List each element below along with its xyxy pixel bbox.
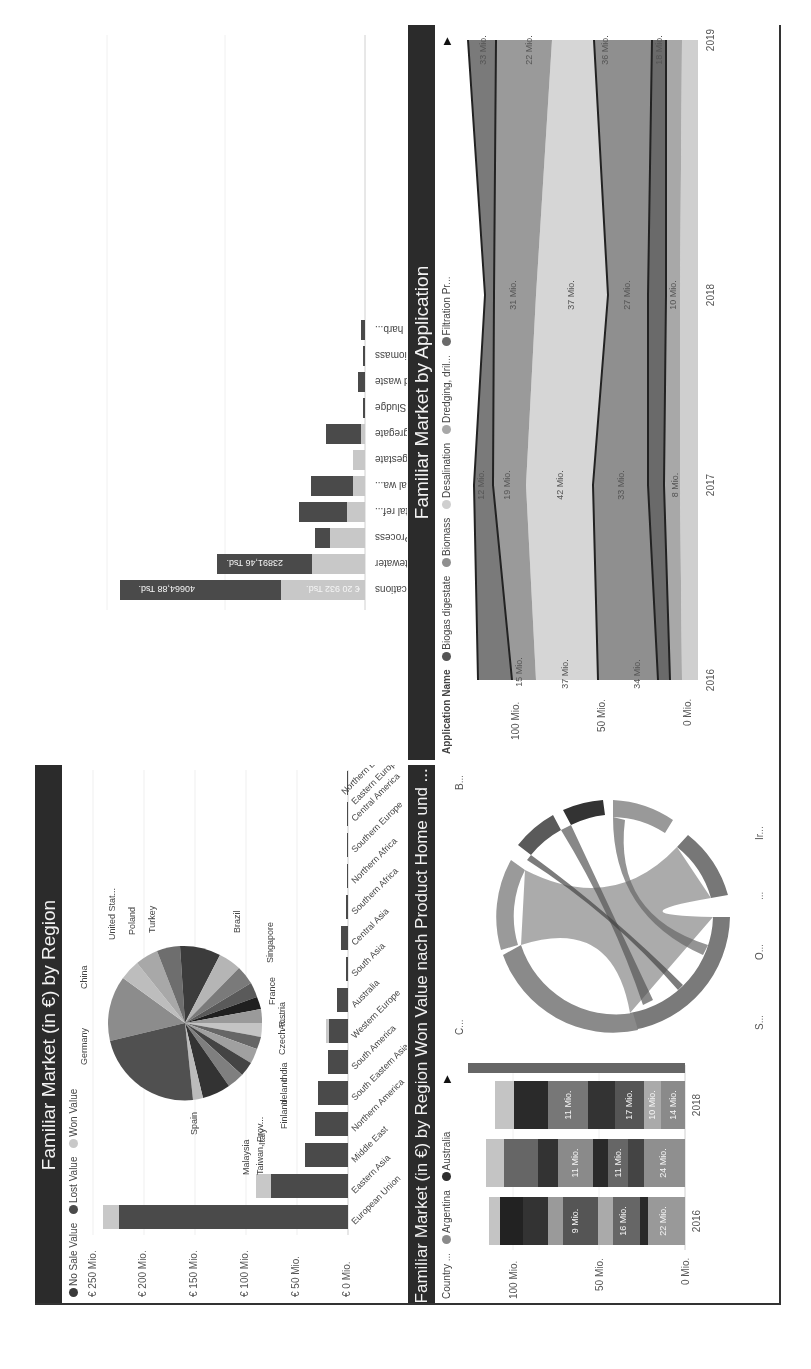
svg-text:...: ... xyxy=(754,892,765,900)
svg-text:27 Mio.: 27 Mio. xyxy=(622,280,632,310)
column-2017 xyxy=(486,1139,685,1187)
svg-text:B...: B... xyxy=(454,775,465,790)
svg-text:16 Mio.: 16 Mio. xyxy=(618,1206,628,1236)
svg-text:Poland: Poland xyxy=(127,907,137,935)
bottom-border xyxy=(779,25,781,1305)
svg-text:Filtration Process: Filtration Process xyxy=(375,532,407,543)
svg-text:Ir...: Ir... xyxy=(754,826,765,840)
svg-text:Spain: Spain xyxy=(189,1112,199,1135)
svg-text:19 Mio.: 19 Mio. xyxy=(502,470,512,500)
svg-text:2018: 2018 xyxy=(705,283,716,306)
svg-text:China: China xyxy=(79,965,89,989)
column-2019 xyxy=(468,1063,685,1073)
svg-text:33 Mio.: 33 Mio. xyxy=(478,35,488,65)
svg-text:34 Mio.: 34 Mio. xyxy=(632,659,642,689)
svg-text:37 Mio.: 37 Mio. xyxy=(560,659,570,689)
svg-text:8 Mio.: 8 Mio. xyxy=(670,473,680,498)
svg-text:Sand & aggregate: Sand & aggregate xyxy=(375,428,407,439)
svg-text:France: France xyxy=(267,977,277,1005)
svg-text:S...: S... xyxy=(754,1015,765,1030)
svg-text:C...: C... xyxy=(454,1019,465,1035)
area-x-labels: 2016201720182019 xyxy=(705,28,716,691)
svg-text:22 Mio.: 22 Mio. xyxy=(658,1206,668,1236)
svg-text:Northern America: Northern America xyxy=(349,1077,406,1134)
svg-text:Brazil: Brazil xyxy=(232,910,242,933)
svg-text:31 Mio.: 31 Mio. xyxy=(508,280,518,310)
svg-text:O...: O... xyxy=(754,944,765,960)
region-columns-panel[interactable]: Familiar Market (in €) by Region Country… xyxy=(408,1060,780,1305)
svg-text:33 Mio.: 33 Mio. xyxy=(616,470,626,500)
svg-text:Pulp&Paper Sludge: Pulp&Paper Sludge xyxy=(375,402,407,413)
svg-text:9 Mio.: 9 Mio. xyxy=(570,1209,580,1234)
svg-text:Dredging, drilling, harb...: Dredging, drilling, harb... xyxy=(375,324,407,335)
svg-text:37 Mio.: 37 Mio. xyxy=(566,280,576,310)
svg-text:Turkey: Turkey xyxy=(147,905,157,933)
svg-text:South Eastern Asia: South Eastern Asia xyxy=(349,1041,407,1102)
svg-text:Australia: Australia xyxy=(349,978,381,1010)
svg-text:Food waste: Food waste xyxy=(375,376,407,387)
svg-text:Malaysia: Malaysia xyxy=(241,1139,251,1175)
svg-text:Biogas digestate: Biogas digestate xyxy=(375,454,407,465)
column-2016 xyxy=(489,1197,685,1245)
svg-text:Biomass: Biomass xyxy=(375,350,407,361)
svg-text:10 Mio.: 10 Mio. xyxy=(668,280,678,310)
svg-text:2018: 2018 xyxy=(691,1093,702,1116)
svg-text:2016: 2016 xyxy=(691,1209,702,1232)
chord-diagram: S...O...... Ir...B...C... xyxy=(408,765,780,1060)
region-bar-plot: GermanyChina United Stat...Poland Turkey… xyxy=(35,765,407,1305)
svg-text:Germany: Germany xyxy=(79,1027,89,1065)
svg-text:10 Mio.: 10 Mio. xyxy=(647,1090,657,1120)
svg-text:42 Mio.: 42 Mio. xyxy=(555,470,565,500)
svg-text:11 Mio.: 11 Mio. xyxy=(570,1149,580,1178)
svg-text:22 Mio.: 22 Mio. xyxy=(524,35,534,65)
svg-text:18 Mio.: 18 Mio. xyxy=(654,35,664,65)
svg-text:United Stat...: United Stat... xyxy=(107,888,117,940)
svg-text:23891,46 Tsd.: 23891,46 Tsd. xyxy=(227,558,283,568)
svg-text:12 Mio.: 12 Mio. xyxy=(476,470,486,500)
region-bar-panel[interactable]: Familiar Market (in €) by Region No Sale… xyxy=(35,765,407,1305)
svg-text:36 Mio.: 36 Mio. xyxy=(600,35,610,65)
svg-text:24 Mio.: 24 Mio. xyxy=(658,1148,668,1178)
left-border xyxy=(35,1303,780,1305)
region-columns-plot: 22 Mio.16 Mio.9 Mio. 24 Mio.11 Mio.11 Mi… xyxy=(408,1060,780,1305)
svg-text:Finland: Finland xyxy=(279,1099,289,1129)
industry-bar-panel[interactable]: Won/Lost Value (in €) by Industry Won Va… xyxy=(35,25,407,760)
svg-text:40664,88 Tsd.: 40664,88 Tsd. xyxy=(139,584,195,594)
industry-columns: € 20 932 Tsd. 40664,88 Tsd. 23891,46 Tsd… xyxy=(35,25,407,760)
application-area-panel[interactable]: Familiar Market by Application Applicati… xyxy=(408,25,780,760)
svg-text:2017: 2017 xyxy=(705,473,716,496)
column-x-labels: 20162018 xyxy=(691,1093,702,1232)
svg-text:14 Mio.: 14 Mio. xyxy=(668,1090,678,1120)
svg-text:17 Mio.: 17 Mio. xyxy=(624,1090,634,1120)
svg-text:Taiwan, Prov...: Taiwan, Prov... xyxy=(255,1117,265,1175)
svg-text:Refinery & Chemical wa...: Refinery & Chemical wa... xyxy=(375,480,407,491)
svg-text:Singapore: Singapore xyxy=(265,922,275,963)
svg-text:€ 20 932 Tsd.: € 20 932 Tsd. xyxy=(306,584,360,594)
svg-text:11 Mio.: 11 Mio. xyxy=(613,1149,623,1178)
svg-text:2019: 2019 xyxy=(705,28,716,51)
svg-text:Other Applications: Other Applications xyxy=(375,584,407,595)
svg-text:Municipal Wastewater: Municipal Wastewater xyxy=(374,558,407,569)
application-area-plot: 34 Mio.37 Mio.15 Mio. 8 Mio.33 Mio.42 Mi… xyxy=(408,25,780,760)
dashboard-canvas: Familiar Market (in €) by Region No Sale… xyxy=(35,25,780,1305)
country-pie-chart xyxy=(108,946,262,1101)
svg-text:11 Mio.: 11 Mio. xyxy=(563,1091,573,1120)
svg-text:Iron, steel and metal ref...: Iron, steel and metal ref... xyxy=(375,506,407,517)
chord-panel[interactable]: Won Value nach Product Home und ... S...… xyxy=(408,765,780,1060)
svg-text:15 Mio.: 15 Mio. xyxy=(514,657,524,687)
svg-text:2016: 2016 xyxy=(705,668,716,691)
region-category-labels: European Union Eastern Asia Middle East … xyxy=(339,765,407,1226)
svg-text:Czech R...: Czech R... xyxy=(277,1013,287,1055)
